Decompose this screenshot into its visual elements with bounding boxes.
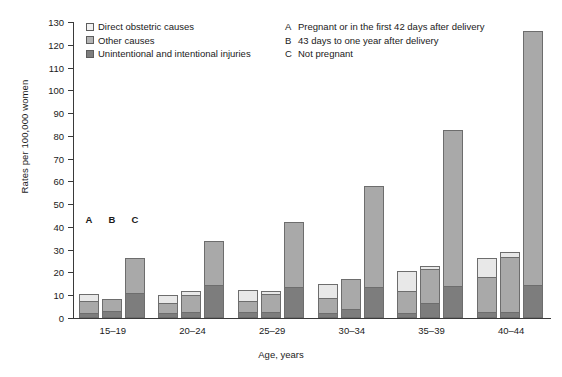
stacked-bar[interactable]: [181, 291, 201, 318]
y-axis-tick-label: 130: [34, 17, 64, 28]
y-axis-title: Rates per 100,000 women: [19, 0, 30, 287]
stacked-bar[interactable]: [125, 258, 145, 318]
stacked-bar[interactable]: [318, 284, 338, 318]
bar-segment-direct-obstetric: [318, 284, 338, 298]
y-axis-tick-label: 120: [34, 40, 64, 51]
bar-segment-other-causes: [500, 257, 520, 313]
bar-segment-direct-obstetric: [79, 294, 99, 301]
bar-group: [312, 22, 392, 318]
bar-segment-injuries: [261, 312, 281, 318]
bar-segment-other-causes: [523, 31, 543, 285]
x-axis-group-label: 25–29: [232, 325, 312, 336]
x-axis-line: [73, 318, 551, 319]
bar-segment-injuries: [158, 313, 178, 318]
y-axis-tick-label: 90: [34, 108, 64, 119]
bar-group: [471, 22, 551, 318]
bar-segment-injuries: [102, 311, 122, 318]
x-axis-group-label: 40–44: [471, 325, 551, 336]
bar-group: [392, 22, 472, 318]
y-axis-tick-label: 50: [34, 199, 64, 210]
stacked-bar[interactable]: [238, 290, 258, 318]
bar-segment-injuries: [181, 312, 201, 318]
x-axis-group-label: 30–34: [312, 325, 392, 336]
bar-segment-other-causes: [181, 295, 201, 312]
bar-segment-other-causes: [79, 301, 99, 314]
x-axis-title: Age, years: [0, 349, 562, 360]
x-axis-group-label: 35–39: [392, 325, 472, 336]
abc-marker-c: C: [125, 214, 145, 225]
y-axis-title-host: Rates per 100,000 women: [0, 0, 30, 340]
bar-segment-direct-obstetric: [397, 271, 417, 290]
chart-figure: Rates per 100,000 women 0102030405060708…: [0, 0, 562, 377]
bar-segment-other-causes: [261, 294, 281, 312]
y-axis-tick-label: 20: [34, 267, 64, 278]
bar-segment-other-causes: [158, 303, 178, 313]
bar-segment-other-causes: [102, 299, 122, 312]
bar-segment-other-causes: [204, 241, 224, 285]
bar-segment-other-causes: [318, 298, 338, 314]
bar-segment-direct-obstetric: [158, 295, 178, 303]
stacked-bar[interactable]: [284, 222, 304, 318]
stacked-bar[interactable]: [79, 294, 99, 318]
bar-segment-direct-obstetric: [238, 290, 258, 301]
y-axis-tick-label: 10: [34, 290, 64, 301]
y-axis-tick-label: 70: [34, 154, 64, 165]
x-axis-group-label: 20–24: [153, 325, 233, 336]
bar-segment-other-causes: [443, 130, 463, 286]
bar-segment-injuries: [318, 313, 338, 318]
bar-segment-injuries: [523, 285, 543, 318]
bar-segment-injuries: [364, 287, 384, 318]
bar-segment-other-causes: [477, 277, 497, 312]
bar-segment-other-causes: [420, 269, 440, 303]
y-axis-tick-label: 40: [34, 222, 64, 233]
stacked-bar[interactable]: [158, 295, 178, 318]
bar-segment-injuries: [341, 309, 361, 318]
abc-marker-b: B: [102, 214, 122, 225]
bar-segment-direct-obstetric: [477, 258, 497, 277]
bar-segment-injuries: [204, 285, 224, 318]
y-axis-tick: [68, 318, 73, 319]
plot-area: [73, 22, 551, 318]
bar-segment-other-causes: [238, 301, 258, 312]
stacked-bar[interactable]: [477, 258, 497, 318]
stacked-bar[interactable]: [523, 31, 543, 318]
bar-segment-injuries: [420, 303, 440, 318]
y-axis-tick-label: 110: [34, 63, 64, 74]
x-axis-group-label: 15–19: [73, 325, 153, 336]
stacked-bar[interactable]: [397, 271, 417, 318]
y-axis-tick-label: 100: [34, 85, 64, 96]
bar-segment-injuries: [443, 286, 463, 318]
y-axis-tick-label: 30: [34, 245, 64, 256]
bar-segment-other-causes: [341, 279, 361, 309]
bar-segment-other-causes: [125, 258, 145, 293]
stacked-bar[interactable]: [102, 299, 122, 318]
bar-segment-injuries: [500, 312, 520, 318]
y-axis-tick-label: 0: [34, 313, 64, 324]
y-axis-tick-label: 60: [34, 176, 64, 187]
bar-segment-other-causes: [397, 291, 417, 314]
bar-segment-other-causes: [364, 186, 384, 287]
abc-markers: ABC: [73, 214, 551, 226]
stacked-bar[interactable]: [261, 291, 281, 318]
bar-group: [153, 22, 233, 318]
bar-segment-injuries: [125, 293, 145, 318]
bar-segment-other-causes: [284, 222, 304, 287]
abc-marker-a: A: [79, 214, 99, 225]
bar-segment-injuries: [79, 313, 99, 318]
bar-segment-injuries: [238, 312, 258, 318]
y-axis-tick-label: 80: [34, 131, 64, 142]
stacked-bar[interactable]: [500, 252, 520, 318]
stacked-bar[interactable]: [204, 241, 224, 318]
stacked-bar[interactable]: [420, 266, 440, 318]
bar-segment-injuries: [284, 287, 304, 318]
bar-segment-injuries: [397, 313, 417, 318]
bar-segment-injuries: [477, 312, 497, 318]
stacked-bar[interactable]: [341, 279, 361, 318]
bar-group: [73, 22, 153, 318]
stacked-bar[interactable]: [364, 186, 384, 318]
bar-group: [232, 22, 312, 318]
